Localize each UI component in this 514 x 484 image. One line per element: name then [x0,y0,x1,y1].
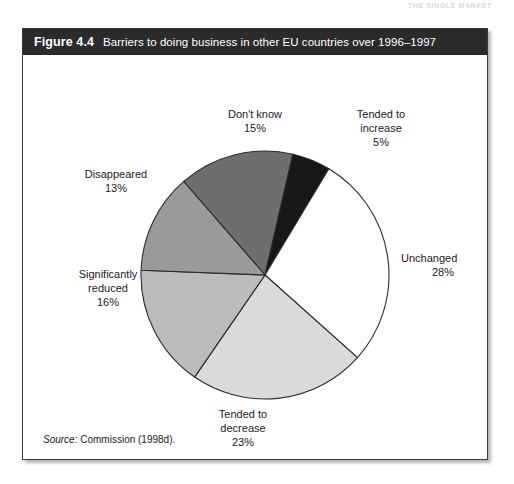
pie-label-dont-know-name: Don't know [228,108,282,120]
pie-chart: Don't know 15% Tended to increase 5% Unc… [23,55,487,459]
source-label: Source: [43,434,77,445]
pie-label-significantly-reduced-name-line1: Significantly [79,268,138,280]
figure-header: Figure 4.4 Barriers to doing business in… [23,29,487,55]
pie-label-significantly-reduced-value: 16% [53,295,163,309]
source-note: Source: Commission (1998d). [43,434,175,445]
pie-label-unchanged: Unchanged 28% [401,251,501,279]
figure-body: Don't know 15% Tended to increase 5% Unc… [23,55,487,459]
pie-label-tended-to-increase-name-line2: increase [335,121,427,135]
pie-label-significantly-reduced: Significantly reduced 16% [53,267,163,309]
pie-label-tended-to-increase-name-line1: Tended to [357,108,405,120]
figure-caption: Barriers to doing business in other EU c… [103,36,436,48]
pie-label-tended-to-decrease: Tended to decrease 23% [187,407,299,449]
pie-label-significantly-reduced-name-line2: reduced [53,281,163,295]
pie-label-tended-to-decrease-name-line2: decrease [187,421,299,435]
source-text: Commission (1998d). [80,434,175,445]
figure-box: Figure 4.4 Barriers to doing business in… [22,28,488,460]
pie-label-disappeared: Disappeared 13% [61,167,171,195]
figure-number: Figure 4.4 [34,35,94,49]
pie-label-dont-know: Don't know 15% [199,107,311,135]
pie-label-unchanged-value: 28% [401,265,501,279]
pie-label-dont-know-value: 15% [199,121,311,135]
pie-label-tended-to-increase: Tended to increase 5% [335,107,427,149]
pie-slices [141,151,389,399]
pie-label-unchanged-name: Unchanged [401,252,457,264]
pie-label-tended-to-increase-value: 5% [335,135,427,149]
page-bleed-through-text: THE SINGLE MARKET [408,2,492,9]
pie-label-tended-to-decrease-name-line1: Tended to [219,408,267,420]
pie-label-tended-to-decrease-value: 23% [187,435,299,449]
pie-label-disappeared-value: 13% [61,181,171,195]
pie-label-disappeared-name: Disappeared [85,168,147,180]
